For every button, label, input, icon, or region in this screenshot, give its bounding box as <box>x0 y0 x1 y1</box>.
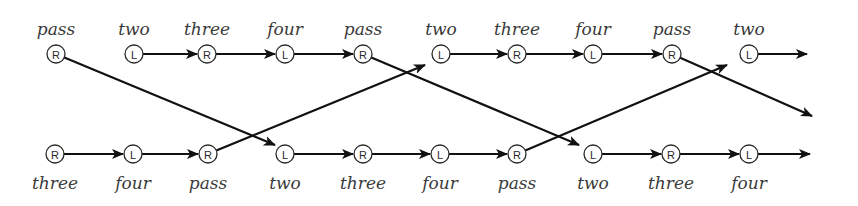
node-l-b1: L <box>124 145 142 163</box>
node-label: three <box>494 19 540 39</box>
node-r-t0: R <box>47 45 65 63</box>
node-r-b0: R <box>46 145 64 163</box>
node-letter: L <box>590 149 596 161</box>
node-label: three <box>184 19 230 39</box>
node-label: four <box>420 173 458 193</box>
crossing-arrow <box>680 58 812 116</box>
node-r-t2: R <box>198 45 216 63</box>
node-l-b9: L <box>740 145 758 163</box>
node-letter: R <box>359 149 367 161</box>
crossing-arrow <box>216 65 425 151</box>
node-letter: R <box>359 49 367 61</box>
node-l-t9: L <box>740 45 758 63</box>
node-label: two <box>577 173 609 193</box>
edges-layer <box>64 54 812 154</box>
node-label: four <box>729 173 767 193</box>
node-l-t1: L <box>125 45 143 63</box>
node-letter: R <box>51 149 59 161</box>
node-label: pass <box>498 173 537 193</box>
node-l-t5: L <box>432 45 450 63</box>
crossing-arrow <box>525 65 727 150</box>
diagram-canvas: RLRLRLRLRLRLRLRLRLRL passtwothreefourpas… <box>0 0 858 206</box>
node-r-t4: R <box>354 45 372 63</box>
nodes-layer: RLRLRLRLRLRLRLRLRLRL <box>46 45 758 163</box>
node-letter: L <box>437 149 443 161</box>
node-letter: L <box>131 49 137 61</box>
node-letter: L <box>438 49 444 61</box>
node-l-b7: L <box>584 145 602 163</box>
node-letter: R <box>203 49 211 61</box>
node-letter: L <box>282 149 288 161</box>
node-label: pass <box>653 19 692 39</box>
node-label: three <box>340 173 386 193</box>
node-label: four <box>265 19 303 39</box>
node-letter: R <box>513 49 521 61</box>
node-label: pass <box>189 173 228 193</box>
labels-layer: passtwothreefourpasstwothreefourpasstwot… <box>32 19 768 193</box>
node-letter: R <box>52 49 60 61</box>
node-letter: R <box>668 49 676 61</box>
node-r-b2: R <box>199 145 217 163</box>
node-letter: R <box>204 149 212 161</box>
node-l-t3: L <box>276 45 294 63</box>
node-letter: L <box>282 49 288 61</box>
node-label: pass <box>344 19 383 39</box>
node-label: two <box>425 19 457 39</box>
node-label: three <box>32 173 78 193</box>
node-label: two <box>269 173 301 193</box>
node-l-b5: L <box>431 145 449 163</box>
node-r-t6: R <box>508 45 526 63</box>
node-label: three <box>648 173 694 193</box>
node-label: four <box>113 173 151 193</box>
node-l-b3: L <box>276 145 294 163</box>
node-r-b4: R <box>354 145 372 163</box>
node-letter: L <box>130 149 136 161</box>
node-label: pass <box>37 19 76 39</box>
node-letter: R <box>667 149 675 161</box>
node-letter: L <box>590 49 596 61</box>
node-r-t8: R <box>663 45 681 63</box>
node-l-t7: L <box>584 45 602 63</box>
node-r-b6: R <box>508 145 526 163</box>
node-label: two <box>118 19 150 39</box>
node-r-b8: R <box>662 145 680 163</box>
crossing-arrow <box>371 57 579 145</box>
node-letter: L <box>746 49 752 61</box>
node-letter: R <box>513 149 521 161</box>
crossing-arrow <box>64 57 275 145</box>
node-letter: L <box>746 149 752 161</box>
node-label: four <box>573 19 611 39</box>
node-label: two <box>733 19 765 39</box>
